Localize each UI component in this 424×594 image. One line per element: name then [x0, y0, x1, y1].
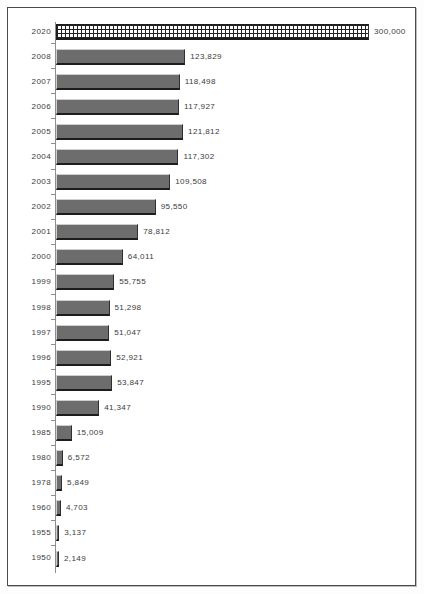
axis-tick	[51, 93, 55, 94]
bar[interactable]	[56, 500, 61, 516]
bar-row: 19604,703	[18, 496, 409, 521]
bar-value-label: 123,829	[190, 53, 222, 61]
bar-value-label: 300,000	[374, 28, 406, 36]
bar-track: 300,000	[56, 19, 409, 44]
bar-track: 4,703	[56, 496, 409, 521]
bar-track: 2,149	[56, 546, 409, 571]
bar-value-label: 121,812	[188, 128, 220, 136]
chart-page: 2020300,0002008123,8292007118,4982006117…	[0, 0, 424, 594]
bar[interactable]	[56, 425, 72, 441]
bar-value-label: 2,149	[64, 554, 86, 562]
bar-value-label: 51,298	[115, 304, 142, 312]
bar-row: 2020300,000	[18, 19, 409, 44]
bar-track: 123,829	[56, 44, 409, 69]
axis-tick	[51, 43, 55, 44]
chart-frame: 2020300,0002008123,8292007118,4982006117…	[7, 7, 416, 586]
bar[interactable]	[56, 300, 110, 316]
bar[interactable]	[56, 325, 109, 341]
bar-track: 117,302	[56, 144, 409, 169]
bar-track: 121,812	[56, 119, 409, 144]
axis-tick	[51, 294, 55, 295]
bar-row: 19806,572	[18, 446, 409, 471]
category-label: 2001	[18, 228, 51, 236]
bar-row: 19553,137	[18, 521, 409, 546]
axis-tick	[51, 319, 55, 320]
bar-highlighted[interactable]	[56, 24, 369, 40]
bar[interactable]	[56, 375, 112, 391]
category-label: 2008	[18, 53, 51, 61]
category-label: 1980	[18, 454, 51, 462]
bar-track: 118,498	[56, 69, 409, 94]
bar[interactable]	[56, 274, 114, 290]
bar[interactable]	[56, 400, 99, 416]
category-label: 2000	[18, 253, 51, 261]
bar-row: 199955,755	[18, 270, 409, 295]
bar-value-label: 78,812	[143, 228, 170, 236]
bar-value-label: 15,009	[77, 429, 104, 437]
axis-tick	[51, 495, 55, 496]
category-label: 2002	[18, 203, 51, 211]
bar-value-label: 53,847	[117, 379, 144, 387]
bar-value-label: 109,508	[175, 178, 207, 186]
category-label: 1998	[18, 304, 51, 312]
bar-track: 15,009	[56, 421, 409, 446]
axis-tick	[51, 143, 55, 144]
bar[interactable]	[56, 149, 178, 165]
bar[interactable]	[56, 525, 59, 541]
bar[interactable]	[56, 74, 180, 90]
category-label: 1995	[18, 379, 51, 387]
category-label: 1950	[18, 554, 51, 562]
category-label: 2006	[18, 103, 51, 111]
bar-value-label: 6,572	[68, 454, 90, 462]
category-label: 1996	[18, 354, 51, 362]
bar-track: 51,047	[56, 320, 409, 345]
bar-track: 52,921	[56, 345, 409, 370]
bar-row: 199041,347	[18, 395, 409, 420]
bar[interactable]	[56, 199, 156, 215]
bar[interactable]	[56, 174, 170, 190]
bar[interactable]	[56, 124, 183, 140]
bar[interactable]	[56, 450, 63, 466]
bar[interactable]	[56, 350, 111, 366]
bar-row: 200295,550	[18, 195, 409, 220]
bar[interactable]	[56, 475, 62, 491]
bar-row: 2007118,498	[18, 69, 409, 94]
bar-rows: 2020300,0002008123,8292007118,4982006117…	[18, 19, 409, 571]
bar-track: 78,812	[56, 220, 409, 245]
category-label: 2003	[18, 178, 51, 186]
category-label: 1997	[18, 329, 51, 337]
axis-tick	[51, 394, 55, 395]
category-label: 1999	[18, 278, 51, 286]
horizontal-bar-chart: 2020300,0002008123,8292007118,4982006117…	[8, 8, 415, 585]
category-label: 1955	[18, 529, 51, 537]
bar-value-label: 95,550	[161, 203, 188, 211]
axis-tick	[51, 118, 55, 119]
bar-row: 2008123,829	[18, 44, 409, 69]
bar-row: 2003109,508	[18, 170, 409, 195]
bar-value-label: 117,927	[184, 103, 215, 111]
axis-tick	[51, 219, 55, 220]
axis-tick	[51, 68, 55, 69]
axis-tick	[51, 269, 55, 270]
bar[interactable]	[56, 99, 179, 115]
bar-value-label: 4,703	[66, 504, 88, 512]
bar-row: 199553,847	[18, 370, 409, 395]
bar-track: 95,550	[56, 195, 409, 220]
bar-track: 51,298	[56, 295, 409, 320]
bar-track: 117,927	[56, 94, 409, 119]
bar-value-label: 5,849	[67, 479, 89, 487]
bar[interactable]	[56, 551, 59, 567]
bar-row: 19502,149	[18, 546, 409, 571]
axis-tick	[51, 194, 55, 195]
bar[interactable]	[56, 249, 123, 265]
bar-value-label: 55,755	[119, 278, 146, 286]
bar-row: 200064,011	[18, 245, 409, 270]
plot-area: 2020300,0002008123,8292007118,4982006117…	[18, 19, 409, 575]
category-label: 2007	[18, 78, 51, 86]
bar-value-label: 51,047	[114, 329, 141, 337]
category-label: 1985	[18, 429, 51, 437]
bar-track: 5,849	[56, 471, 409, 496]
bar[interactable]	[56, 49, 185, 65]
bar-value-label: 52,921	[116, 354, 143, 362]
bar[interactable]	[56, 224, 138, 240]
